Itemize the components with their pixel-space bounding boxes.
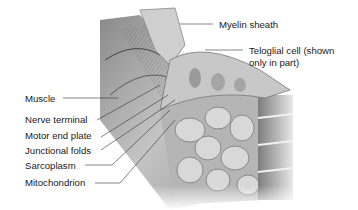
label-motor-end-plate: Motor end plate <box>25 130 92 141</box>
label-nerve-terminal: Nerve terminal <box>25 114 87 125</box>
label-myelin-sheath: Myelin sheath <box>219 19 278 30</box>
label-muscle: Muscle <box>25 93 55 104</box>
neuromuscular-junction-diagram: Myelin sheath Teloglial cell (shown only… <box>0 0 358 210</box>
label-teloglial-cell-line1: Teloglial cell (shown <box>249 45 334 56</box>
label-sarcoplasm: Sarcoplasm <box>25 160 76 171</box>
side-face <box>258 95 293 200</box>
label-junctional-folds: Junctional folds <box>25 145 91 156</box>
label-teloglial-cell-line2: only in part) <box>249 57 299 68</box>
label-mitochondrion: Mitochondrion <box>25 177 85 188</box>
